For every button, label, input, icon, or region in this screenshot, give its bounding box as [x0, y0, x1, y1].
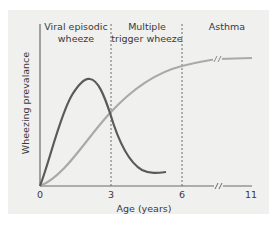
- x-tick-3: 3: [108, 189, 114, 200]
- wheezing-prevalence-chart: Viral episodic wheeze Multiple trigger w…: [0, 0, 273, 228]
- x-tick-0: 0: [37, 189, 43, 200]
- x-axis-break-mark: [214, 182, 223, 190]
- y-axis-label: Wheezing prevalance: [20, 52, 31, 155]
- curve-break-mark: [213, 55, 222, 63]
- x-tick-6: 6: [179, 189, 185, 200]
- region-label-viral-episodic-line2: wheeze: [58, 33, 94, 44]
- x-tick-11: 11: [245, 189, 257, 200]
- region-label-multiple-trigger-line1: Multiple: [128, 21, 166, 32]
- region-label-multiple-trigger-line2: trigger wheeze: [111, 33, 183, 44]
- region-label-viral-episodic-line1: Viral episodic: [44, 21, 108, 32]
- dark-curve-viral-episodic: [40, 79, 166, 186]
- region-label-asthma: Asthma: [209, 21, 245, 32]
- x-axis-label: Age (years): [117, 203, 172, 214]
- light-curve-asthma: [40, 58, 252, 186]
